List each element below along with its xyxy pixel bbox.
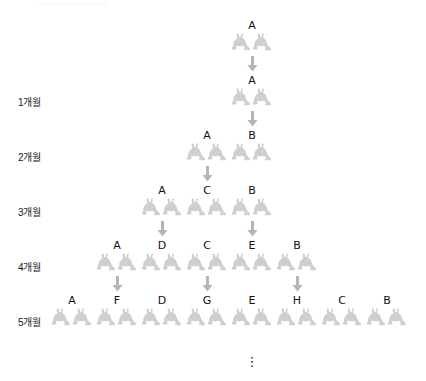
month-label-2: 2개월: [18, 152, 41, 164]
rabbit-icon: [187, 142, 207, 162]
rabbit-pair: D: [140, 240, 184, 272]
rabbit-pair-icons: [365, 307, 409, 327]
rabbit-icon: [208, 307, 228, 327]
rabbit-pair: A: [140, 185, 184, 217]
pair-label: C: [320, 295, 364, 306]
month-label-5: 5개월: [18, 317, 41, 329]
rabbit-pair: F: [95, 295, 139, 327]
rabbit-icon: [253, 32, 273, 52]
rabbit-pair: E: [230, 295, 274, 327]
rabbit-icon: [388, 307, 408, 327]
month-label-3: 3개월: [18, 207, 41, 219]
rabbit-pair-icons: [185, 142, 229, 162]
rabbit-icon: [298, 307, 318, 327]
pair-label: A: [230, 75, 274, 86]
rabbit-icon: [208, 252, 228, 272]
rabbit-pair-icons: [275, 307, 319, 327]
rabbit-pair: A: [95, 240, 139, 272]
rabbit-icon: [298, 252, 318, 272]
pair-label: A: [230, 20, 274, 31]
rabbit-pair-icons: [185, 197, 229, 217]
rabbit-icon: [232, 307, 252, 327]
rabbit-icon: [118, 307, 138, 327]
rabbit-pair-icons: [230, 87, 274, 107]
rabbit-pair: B: [365, 295, 409, 327]
pair-label: F: [95, 295, 139, 306]
down-arrow-icon: [247, 56, 258, 72]
rabbit-icon: [97, 307, 117, 327]
rabbit-icon: [118, 252, 138, 272]
down-arrow-icon: [247, 111, 258, 127]
pair-label: D: [140, 240, 184, 251]
pair-label: B: [365, 295, 409, 306]
rabbit-pair: E: [230, 240, 274, 272]
rabbit-pair-icons: [185, 252, 229, 272]
rabbit-pair-icons: [50, 307, 94, 327]
rabbit-icon: [253, 197, 273, 217]
rabbit-icon: [187, 197, 207, 217]
month-label-1: 1개월: [18, 97, 41, 109]
rabbit-icon: [232, 197, 252, 217]
pair-label: H: [275, 295, 319, 306]
down-arrow-icon: [202, 166, 213, 182]
month-label-4: 4개월: [18, 262, 41, 274]
rabbit-pair-icons: [140, 307, 184, 327]
rabbit-pair-icons: [230, 252, 274, 272]
rabbit-icon: [187, 307, 207, 327]
rabbit-icon: [163, 197, 183, 217]
rabbit-icon: [73, 307, 93, 327]
rabbit-pair: C: [185, 185, 229, 217]
rabbit-icon: [253, 87, 273, 107]
rabbit-pair-icons: [230, 142, 274, 162]
rabbit-icon: [97, 252, 117, 272]
rabbit-pair: A: [230, 20, 274, 52]
rabbit-pair-icons: [95, 307, 139, 327]
pair-label: C: [185, 240, 229, 251]
rabbit-icon: [163, 307, 183, 327]
rabbit-pair: B: [230, 130, 274, 162]
rabbit-pair: H: [275, 295, 319, 327]
rabbit-pair: A: [50, 295, 94, 327]
down-arrow-icon: [157, 221, 168, 237]
down-arrow-icon: [202, 276, 213, 292]
pair-label: B: [275, 240, 319, 251]
rabbit-pair-icons: [275, 252, 319, 272]
rabbit-pair: C: [320, 295, 364, 327]
rabbit-icon: [253, 252, 273, 272]
rabbit-icon: [232, 252, 252, 272]
rabbit-pair: A: [230, 75, 274, 107]
rabbit-pair-icons: [140, 197, 184, 217]
pair-label: A: [50, 295, 94, 306]
pair-label: D: [140, 295, 184, 306]
rabbit-pair-icons: [230, 197, 274, 217]
rabbit-pair-icons: [230, 307, 274, 327]
rabbit-pair: G: [185, 295, 229, 327]
down-arrow-icon: [112, 276, 123, 292]
rabbit-pair: B: [230, 185, 274, 217]
rabbit-pair-icons: [185, 307, 229, 327]
rabbit-pair-icons: [320, 307, 364, 327]
rabbit-icon: [142, 252, 162, 272]
rabbit-icon: [343, 307, 363, 327]
pair-label: B: [230, 130, 274, 141]
rabbit-icon: [277, 252, 297, 272]
rabbit-breeding-diagram: 1개월2개월3개월4개월5개월 AAABACBADCEBAFDGEHCB ⋮: [0, 0, 426, 381]
pair-label: E: [230, 240, 274, 251]
vertical-ellipsis: ⋮: [242, 355, 262, 368]
pair-label: G: [185, 295, 229, 306]
down-arrow-icon: [292, 276, 303, 292]
rabbit-icon: [142, 197, 162, 217]
pair-label: A: [185, 130, 229, 141]
pair-label: C: [185, 185, 229, 196]
rabbit-icon: [253, 142, 273, 162]
rabbit-pair: C: [185, 240, 229, 272]
rabbit-icon: [367, 307, 387, 327]
rabbit-icon: [322, 307, 342, 327]
rabbit-icon: [253, 307, 273, 327]
rabbit-icon: [163, 252, 183, 272]
rabbit-icon: [232, 142, 252, 162]
rabbit-pair: D: [140, 295, 184, 327]
rabbit-pair-icons: [230, 32, 274, 52]
rabbit-icon: [187, 252, 207, 272]
pair-label: A: [95, 240, 139, 251]
